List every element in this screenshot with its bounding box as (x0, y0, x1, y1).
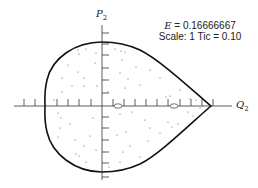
energy-boundary-curve (45, 42, 211, 172)
island-2 (170, 104, 178, 108)
q2-axis-label: Q2 (236, 99, 249, 113)
scale-annotation: Scale: 1 Tic = 0.10 (155, 31, 245, 42)
scatter-points (54, 49, 206, 168)
p2-axis-ticks (102, 33, 109, 177)
energy-annotation: E = 0.16666667 (155, 20, 245, 31)
info-annotation: E = 0.16666667 Scale: 1 Tic = 0.10 (155, 20, 245, 42)
island-1 (114, 104, 122, 108)
p2-axis-label: P2 (96, 8, 107, 22)
